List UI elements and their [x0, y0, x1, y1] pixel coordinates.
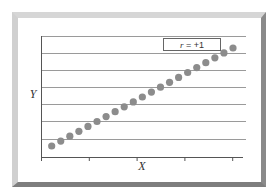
data-point [93, 118, 100, 125]
data-point [139, 93, 146, 100]
data-point [157, 84, 164, 91]
data-point [220, 49, 227, 56]
data-point [148, 89, 155, 96]
data-point [130, 98, 137, 105]
legend-label: r = +1 [180, 40, 204, 50]
data-point [229, 44, 236, 51]
data-point [102, 113, 109, 120]
x-axis-label: X [137, 159, 146, 173]
y-axis-label: Y [30, 87, 38, 101]
data-point [175, 74, 182, 81]
data-point [66, 133, 73, 140]
data-point [121, 103, 128, 110]
data-point [166, 79, 173, 86]
scatter-chart: r = +1 Y X [0, 0, 277, 190]
data-point [75, 128, 82, 135]
data-point [193, 64, 200, 71]
legend: r = +1 [164, 39, 221, 51]
data-point [184, 69, 191, 76]
gridlines [42, 37, 247, 140]
data-point [112, 108, 119, 115]
data-point [57, 138, 64, 145]
data-point [48, 142, 55, 149]
data-points [48, 44, 236, 149]
data-point [211, 54, 218, 61]
x-ticks [42, 158, 233, 162]
data-point [84, 123, 91, 130]
data-point [202, 59, 209, 66]
